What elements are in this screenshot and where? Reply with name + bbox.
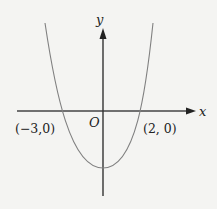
graph-canvas: y x O (−3,0) (2, 0) xyxy=(0,0,217,209)
point-label-2: (2, 0) xyxy=(143,121,177,136)
y-axis-arrow-icon xyxy=(100,28,107,39)
origin-label: O xyxy=(89,115,100,130)
x-axis-label: x xyxy=(199,104,207,119)
point-label-neg3: (−3,0) xyxy=(15,121,55,136)
x-axis-arrow-icon xyxy=(186,108,196,115)
y-axis-label: y xyxy=(95,12,104,27)
parabola-curve xyxy=(45,23,153,168)
